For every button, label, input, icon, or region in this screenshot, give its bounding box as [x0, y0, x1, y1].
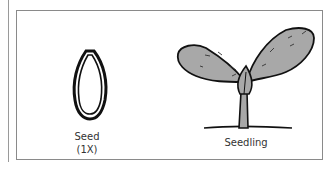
seedling-label: Seedling	[216, 136, 276, 149]
seedling-icon	[178, 28, 314, 128]
seed-caption: Seed (1X)	[62, 130, 112, 156]
seed-icon	[74, 51, 106, 119]
figure-illustration	[0, 0, 336, 179]
seed-label: Seed	[62, 130, 112, 143]
seed-scale-label: (1X)	[62, 143, 112, 156]
